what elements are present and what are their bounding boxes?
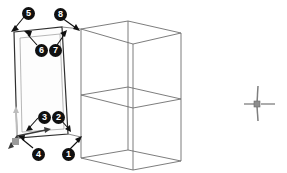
callout-leader-5 <box>15 17 24 28</box>
selected-face-connector-bottom <box>68 134 81 137</box>
box-top-face[interactable] <box>81 21 181 44</box>
callout-badge-1[interactable]: 1 <box>62 148 75 161</box>
crosshair-arm-up <box>257 86 258 103</box>
crosshair-arm-down <box>257 106 258 121</box>
callout-badge-7[interactable]: 7 <box>49 44 62 57</box>
callout-badge-6[interactable]: 6 <box>35 44 48 57</box>
callout-badge-8[interactable]: 8 <box>54 8 67 21</box>
callout-arrowhead-5 <box>11 25 19 32</box>
crosshair-center-handle[interactable] <box>254 101 260 107</box>
callout-arrowhead-8 <box>73 24 80 31</box>
axis-gizmo-origin-handle[interactable] <box>12 138 19 145</box>
callout-badge-2[interactable]: 2 <box>52 111 65 124</box>
box-middle-divider-face[interactable] <box>81 87 181 108</box>
callout-badge-4[interactable]: 4 <box>32 148 45 161</box>
axis-gizmo-z-axis <box>16 110 17 136</box>
wireframe-box[interactable] <box>81 21 181 170</box>
scene-canvas <box>0 0 287 173</box>
box-bottom-face[interactable] <box>81 150 181 170</box>
callout-badge-3[interactable]: 3 <box>38 111 51 124</box>
3d-model-viewport[interactable]: 1 2 3 4 5 6 7 8 <box>0 0 287 173</box>
crosshair-pivot-marker[interactable] <box>244 86 275 121</box>
callout-badge-5[interactable]: 5 <box>22 7 35 20</box>
